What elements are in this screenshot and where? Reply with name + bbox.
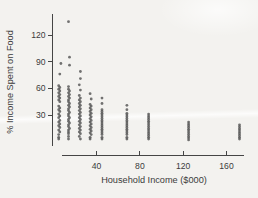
scatter-plot-figure: 3060901204080120160 Household Income ($0… bbox=[0, 0, 258, 198]
tick-marks: 3060901204080120160 bbox=[31, 30, 234, 170]
y-tick-label: 90 bbox=[36, 57, 46, 67]
y-axis-label: % Income Spent on Food bbox=[5, 30, 15, 134]
data-point bbox=[79, 70, 82, 73]
data-point bbox=[126, 104, 129, 107]
data-point bbox=[79, 77, 82, 80]
data-point bbox=[147, 138, 150, 141]
data-point bbox=[126, 138, 129, 141]
data-point bbox=[68, 56, 71, 59]
y-tick-label: 30 bbox=[36, 110, 46, 120]
data-point bbox=[101, 138, 104, 141]
data-point bbox=[67, 138, 70, 141]
x-axis-label: Household Income ($000) bbox=[101, 175, 207, 185]
x-tick-label: 160 bbox=[219, 161, 234, 171]
data-point bbox=[67, 135, 70, 138]
data-point bbox=[90, 98, 93, 101]
data-point bbox=[67, 85, 70, 88]
y-tick-label: 60 bbox=[36, 83, 46, 93]
data-point bbox=[60, 62, 63, 65]
data-point bbox=[58, 126, 61, 129]
data-point bbox=[78, 94, 81, 97]
data-point bbox=[90, 133, 93, 136]
data-point bbox=[58, 73, 61, 76]
data-point bbox=[67, 20, 70, 23]
data-point bbox=[79, 132, 82, 135]
data-point bbox=[126, 108, 129, 111]
data-point bbox=[58, 100, 61, 103]
data-point bbox=[78, 83, 81, 86]
data-points bbox=[57, 20, 241, 141]
scatter-plot: 3060901204080120160 Household Income ($0… bbox=[0, 0, 258, 198]
data-point bbox=[58, 131, 61, 134]
data-point bbox=[89, 92, 92, 95]
x-tick-label: 120 bbox=[176, 161, 191, 171]
data-point bbox=[68, 64, 71, 67]
data-point bbox=[101, 97, 104, 100]
data-point bbox=[79, 138, 82, 141]
data-point bbox=[58, 110, 61, 113]
x-tick-label: 40 bbox=[92, 161, 102, 171]
data-point bbox=[67, 132, 70, 135]
data-point bbox=[126, 133, 129, 136]
data-point bbox=[101, 102, 104, 105]
data-point bbox=[101, 133, 104, 136]
data-point bbox=[78, 135, 81, 138]
x-tick-label: 80 bbox=[135, 161, 145, 171]
data-point bbox=[57, 116, 60, 119]
y-tick-label: 120 bbox=[31, 30, 46, 40]
data-point bbox=[89, 138, 92, 141]
data-point bbox=[238, 138, 241, 141]
data-point bbox=[79, 89, 82, 92]
data-point bbox=[187, 139, 190, 142]
data-point bbox=[57, 133, 60, 136]
data-point bbox=[57, 138, 60, 141]
